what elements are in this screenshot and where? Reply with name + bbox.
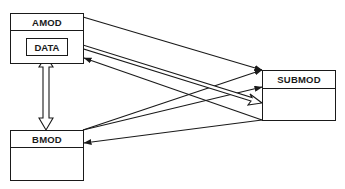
arrow-submod-to-amod (84, 58, 262, 120)
arrow-bmod-to-submod-1 (83, 70, 262, 130)
module-amod-data[interactable]: DATA (26, 38, 68, 56)
module-submod-title: SUBMOD (263, 71, 335, 89)
hollow-arrow-data-bmod (39, 56, 53, 130)
module-bmod-title: BMOD (11, 131, 83, 148)
hollow-arrow-data-submod (68, 40, 262, 105)
module-submod[interactable]: SUBMOD (262, 70, 336, 121)
module-amod-title: AMOD (11, 14, 83, 31)
module-bmod[interactable]: BMOD (10, 130, 84, 181)
arrow-amod-to-submod (83, 17, 262, 70)
